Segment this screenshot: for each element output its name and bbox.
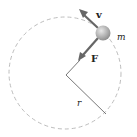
mass-label: m [117, 32, 126, 42]
radius-label: r [77, 98, 82, 108]
circular-motion-diagram: v m F r [0, 0, 137, 137]
center-to-force-line [66, 60, 80, 75]
mass-ball [96, 26, 111, 41]
velocity-label: v [95, 9, 103, 20]
force-label: F [91, 53, 98, 64]
radius-line [66, 75, 106, 114]
